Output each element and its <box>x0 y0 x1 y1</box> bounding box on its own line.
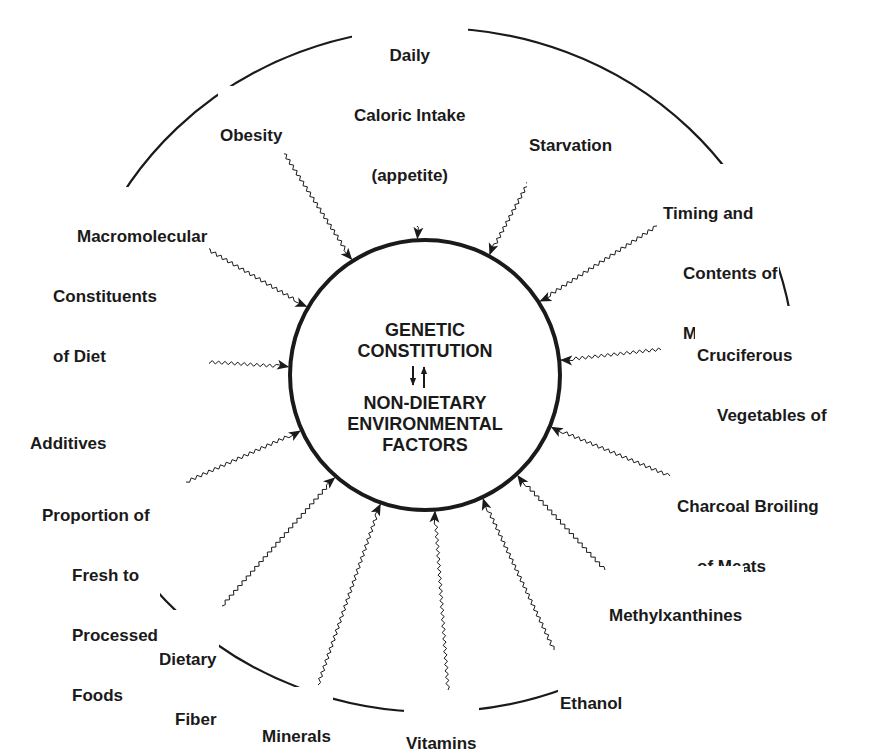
wavy-arrow-timing-contents-meals <box>540 226 657 301</box>
wavy-arrow-charcoal-broiling <box>552 427 670 476</box>
label-line: Fresh to <box>42 566 158 586</box>
label-line: Cruciferous <box>697 346 827 366</box>
factor-methylxanthines: Methylxanthines <box>607 566 744 666</box>
center-line: FACTORS <box>300 435 550 456</box>
factor-proportion-fresh-processed: Proportion of Fresh to Processed Foods <box>40 466 160 746</box>
factor-minerals: Minerals <box>260 687 333 753</box>
label-line: Vitamins <box>406 734 477 753</box>
label-line: of Diet <box>53 347 207 367</box>
factor-dietary-fiber: Dietary Fiber <box>153 610 219 753</box>
label-line: (appetite) <box>354 166 466 186</box>
label-line: Dietary <box>155 650 217 670</box>
center-line: NON-DIETARY <box>300 393 550 414</box>
factor-ethanol: Ethanol <box>558 654 624 753</box>
label-line: Minerals <box>262 727 331 747</box>
factor-starvation: Starvation <box>527 96 614 196</box>
wavy-arrow-ethanol <box>483 499 554 650</box>
label-line: Macromolecular <box>53 227 207 247</box>
center-line: CONSTITUTION <box>300 341 550 362</box>
label-line: Obesity <box>220 126 282 146</box>
wavy-arrow-proportion-fresh-processed <box>186 431 300 482</box>
label-line: Starvation <box>529 136 612 156</box>
label-line: Methylxanthines <box>609 606 742 626</box>
center-top-text: GENETIC CONSTITUTION <box>300 320 550 362</box>
label-line: Timing and <box>663 204 777 224</box>
label-line: Daily <box>354 46 466 66</box>
wavy-arrow-methylxanthines <box>518 476 605 570</box>
center-line: GENETIC <box>300 320 550 341</box>
center-line: ENVIRONMENTAL <box>300 414 550 435</box>
label-line: Contents of <box>663 264 777 284</box>
center-bottom-text: NON-DIETARY ENVIRONMENTAL FACTORS <box>300 393 550 456</box>
wavy-arrow-vitamins <box>434 512 449 690</box>
label-line: Fiber <box>155 710 217 730</box>
label-line: Foods <box>42 686 158 706</box>
label-line: Caloric Intake <box>354 106 466 126</box>
label-line: Ethanol <box>560 694 622 714</box>
label-line: Constituents <box>53 287 207 307</box>
factor-daily-caloric-intake: Daily Caloric Intake (appetite) <box>352 6 468 226</box>
label-line: Processed <box>42 626 158 646</box>
wavy-arrow-dietary-fiber <box>222 478 335 606</box>
factor-vitamins: Vitamins <box>404 694 479 753</box>
factor-macromolecular-constituents: Macromolecular Constituents of Diet <box>51 187 209 407</box>
label-line: Additives <box>30 434 107 454</box>
factor-obesity: Obesity <box>218 86 284 186</box>
label-line: Vegetables of <box>697 406 827 426</box>
wavy-arrow-minerals <box>318 505 380 686</box>
label-line: Proportion of <box>42 506 158 526</box>
label-line: Charcoal Broiling <box>677 497 819 517</box>
